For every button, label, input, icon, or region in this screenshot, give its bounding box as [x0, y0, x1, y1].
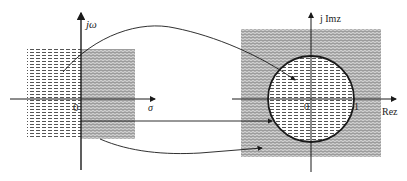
rez-axis-label: Rez: [382, 106, 398, 117]
sigma-axis-label: σ: [148, 102, 154, 113]
jw-axis-label: jω: [84, 18, 97, 30]
z-origin-label: 0: [304, 101, 309, 112]
left-half-plane-region: [27, 49, 81, 139]
right-half-plane-region: [81, 49, 135, 139]
s-to-z-mapping-diagram: jω 0 σ j Imz 0 1 Rez: [0, 0, 407, 181]
s-plane: jω 0 σ: [10, 13, 155, 170]
s-origin-label: 0: [73, 101, 79, 113]
rhp-to-outside-arrow: [100, 139, 262, 154]
imz-axis-label: j Imz: [319, 13, 341, 24]
unit-label: 1: [354, 101, 359, 112]
